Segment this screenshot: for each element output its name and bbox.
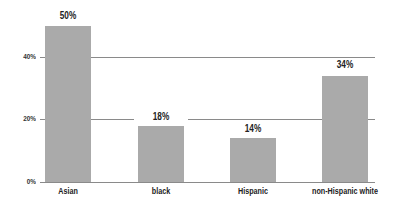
- y-tick-40: 40%: [7, 52, 36, 61]
- value-label-black: 18%: [134, 110, 188, 122]
- value-label-asian: 50%: [46, 9, 91, 21]
- bar-non-hispanic-white: [322, 76, 368, 182]
- x-label-black: black: [121, 186, 201, 196]
- value-label-non-hispanic-white: 34%: [323, 58, 368, 70]
- value-label-hispanic: 14%: [226, 122, 280, 134]
- x-label-hispanic: Hispanic: [213, 186, 293, 196]
- x-label-non-hispanic-white: non-Hispanic white: [305, 186, 385, 196]
- bar-black: [138, 126, 184, 182]
- bar-asian: [45, 26, 91, 182]
- bar-hispanic: [230, 138, 276, 182]
- baseline-0: [40, 182, 375, 183]
- x-label-asian: Asian: [28, 186, 108, 196]
- y-tick-20: 20%: [7, 114, 36, 123]
- y-tick-0: 0%: [7, 177, 36, 186]
